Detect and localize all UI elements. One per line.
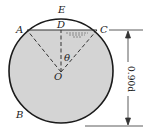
dimension-label: 0.90d: [126, 66, 136, 92]
pipe-diagram: 0.90d E A D C θ O B: [0, 0, 144, 134]
label-E: E: [57, 4, 66, 15]
label-B: B: [15, 109, 23, 120]
label-theta: θ: [64, 52, 70, 63]
label-D: D: [56, 19, 65, 30]
label-C: C: [100, 24, 108, 35]
label-A: A: [15, 24, 23, 35]
label-O: O: [54, 71, 62, 82]
